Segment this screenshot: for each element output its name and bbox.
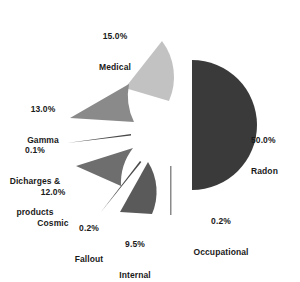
pie-slice-discharges[interactable] xyxy=(67,134,131,143)
pie-label-discharges-percent: 0.1% xyxy=(2,145,68,155)
pie-label-radon-name: Radon xyxy=(251,166,297,176)
pie-label-occupational-percent: 0.2% xyxy=(177,216,265,226)
pie-slice-radon[interactable] xyxy=(192,60,257,190)
pie-label-medical-name: Medical xyxy=(84,62,146,72)
pie-label-cosmic-percent: 12.0% xyxy=(23,187,83,197)
pie-label-internal-name: Internal xyxy=(106,270,164,280)
pie-slice-cosmic[interactable] xyxy=(76,148,133,186)
pie-label-medical: 15.0% Medical xyxy=(84,10,146,93)
pie-label-occupational-name: Occupational xyxy=(177,247,265,257)
pie-label-internal: 9.5% Internal xyxy=(106,218,164,282)
pie-label-gamma-percent: 13.0% xyxy=(12,104,74,114)
pie-slice-occupational[interactable] xyxy=(170,166,172,215)
pie-label-radon-percent: 50.0% xyxy=(251,135,297,145)
pie-label-internal-percent: 9.5% xyxy=(106,239,164,249)
pie-slice-internal[interactable] xyxy=(120,162,157,214)
pie-label-radon: 50.0% Radon xyxy=(251,114,297,197)
pie-label-occupational: 0.2% Occupational xyxy=(177,195,265,278)
pie-label-medical-percent: 15.0% xyxy=(84,31,146,41)
